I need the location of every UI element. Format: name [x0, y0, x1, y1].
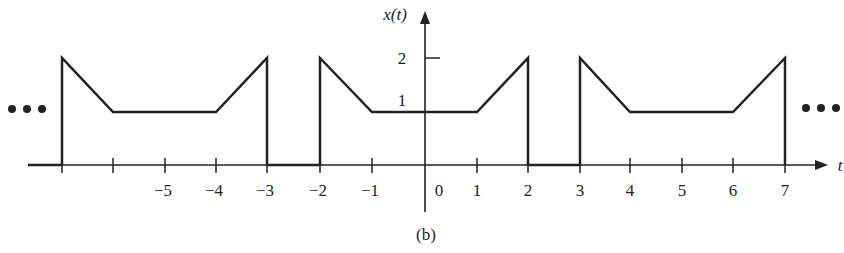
figure-caption: (b): [416, 225, 436, 244]
t-axis-label: t: [838, 156, 844, 175]
x-tick-label: 4: [626, 181, 635, 200]
x-tick-label: −3: [256, 181, 274, 200]
x-tick-label: 2: [524, 181, 533, 200]
x-tick-label: −1: [361, 181, 379, 200]
x-tick-label: 0: [435, 181, 444, 200]
y-tick-label-2: 2: [398, 49, 407, 68]
x-tick-label: 5: [678, 181, 687, 200]
ellipsis-left-icon: [8, 105, 46, 113]
x-tick-label: 6: [729, 181, 738, 200]
x-tick-label: −5: [154, 181, 172, 200]
x-tick-label: 7: [781, 181, 790, 200]
y-axis-arrow-icon: [420, 11, 430, 24]
x-tick-label: 1: [473, 181, 482, 200]
x-tick-label: −4: [205, 181, 224, 200]
y-tick-label-1: 1: [398, 91, 407, 110]
x-tick-label: −2: [309, 181, 327, 200]
ellipsis-right-icon: [802, 104, 840, 112]
signal-plot: −5 −4 −3 −2 −1 0 1 2 3 4 5 6 7 1 2 x(t) …: [0, 0, 844, 253]
y-axis-label: x(t): [382, 5, 407, 24]
t-axis-arrow-icon: [815, 160, 828, 170]
waveform: [28, 58, 785, 165]
x-tick-label: 3: [576, 181, 585, 200]
